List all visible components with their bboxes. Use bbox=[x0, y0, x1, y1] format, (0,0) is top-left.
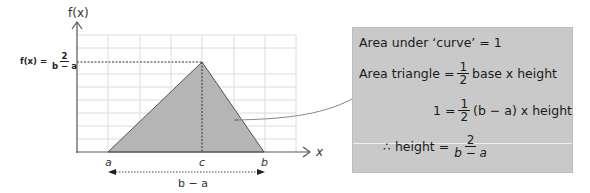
substitution-prefix: 1 = bbox=[433, 103, 455, 118]
fraction-denominator: 2 bbox=[458, 111, 470, 123]
area-statement: Area under ‘curve’ = 1 bbox=[359, 35, 502, 50]
tick-b: b bbox=[261, 156, 268, 169]
substitution-suffix: (b − a) x height bbox=[473, 103, 572, 118]
y-axis-label: f(x) bbox=[68, 6, 89, 20]
tick-c: c bbox=[199, 156, 205, 169]
result-prefix: ∴ height = bbox=[383, 139, 449, 154]
explanation-box: Area under ‘curve’ = 1 Area triangle = 1… bbox=[352, 27, 573, 173]
height-result: ∴ height = 2 b − a bbox=[383, 134, 492, 159]
peak-label-prefix: f(x) = bbox=[20, 56, 47, 66]
fraction-denominator: 2 bbox=[457, 74, 469, 86]
fraction-denominator: b − a bbox=[452, 147, 489, 159]
formula-prefix: Area triangle = bbox=[359, 66, 454, 81]
base-length-label: b − a bbox=[178, 177, 208, 190]
tick-a: a bbox=[105, 156, 112, 169]
area-triangle-formula: Area triangle = 1 2 base x height bbox=[359, 61, 557, 86]
half-fraction: 1 2 bbox=[457, 61, 469, 86]
triangle-area bbox=[108, 62, 264, 152]
formula-suffix: base x height bbox=[472, 66, 557, 81]
half-fraction: 1 2 bbox=[458, 98, 470, 123]
peak-denominator: b − a bbox=[50, 62, 79, 71]
peak-fraction: 2 b − a bbox=[50, 52, 79, 70]
height-fraction: 2 b − a bbox=[452, 134, 489, 159]
x-axis-label: x bbox=[316, 145, 323, 159]
area-substitution: 1 = 1 2 (b − a) x height bbox=[433, 98, 572, 123]
connector-curve bbox=[236, 99, 352, 120]
peak-value-label: f(x) = 2 b − a bbox=[20, 52, 79, 70]
base-arrow-left-icon bbox=[108, 169, 116, 175]
base-arrow-right-icon bbox=[257, 169, 265, 175]
